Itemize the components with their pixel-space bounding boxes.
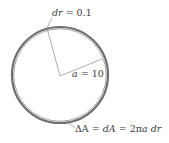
- equals-1: =: [89, 123, 103, 134]
- radius-label: a = 10: [72, 69, 104, 79]
- a-value: = 10: [78, 68, 104, 79]
- dr-value: = 0.1: [63, 7, 92, 18]
- dr-label: dr = 0.1: [52, 8, 92, 18]
- equals-2pi: = 2π: [116, 123, 142, 134]
- dr-leader-line: [47, 18, 52, 28]
- area-formula-label: ΔA = dA = 2πa dr: [75, 124, 161, 134]
- dA: dA: [103, 123, 116, 134]
- formula-dr: dr: [151, 123, 162, 134]
- delta-a: ΔA: [75, 123, 89, 134]
- dr-var: dr: [52, 7, 63, 18]
- radius-line-dr: [47, 28, 60, 76]
- formula-a: a: [142, 123, 148, 134]
